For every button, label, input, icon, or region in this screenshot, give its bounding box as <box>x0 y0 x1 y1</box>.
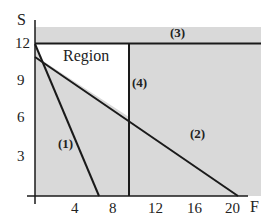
y-tick-12: 12 <box>15 35 30 51</box>
constraint-label-3: (3) <box>170 25 185 40</box>
y-axis-label: S <box>17 11 26 28</box>
constraint-label-2: (2) <box>190 126 205 141</box>
y-tick-6: 6 <box>17 109 25 125</box>
x-axis-label: F <box>250 198 259 215</box>
x-tick-8: 8 <box>109 200 117 216</box>
feasible-region-diagram: S F 12 9 6 3 4 8 12 16 20 Region (1) (2)… <box>0 0 274 220</box>
x-tick-4: 4 <box>71 200 79 216</box>
y-tick-3: 3 <box>17 148 25 164</box>
region-label: Region <box>63 47 109 65</box>
x-tick-12: 12 <box>148 200 163 216</box>
x-tick-16: 16 <box>187 200 203 216</box>
constraint-label-1: (1) <box>58 136 73 151</box>
y-tick-9: 9 <box>17 72 25 88</box>
constraint-label-4: (4) <box>132 75 147 90</box>
x-tick-20: 20 <box>225 200 240 216</box>
